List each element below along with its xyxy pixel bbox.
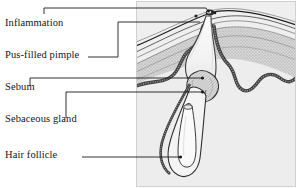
label-sebum: Sebum	[5, 82, 35, 93]
skin-cross-section-figure: Inflammation Pus-filled pimple Sebum Seb…	[0, 0, 297, 188]
label-hair-follicle: Hair follicle	[5, 150, 57, 161]
label-sebaceous-gland: Sebaceous gland	[5, 114, 77, 125]
label-pus-filled-pimple: Pus-filled pimple	[5, 50, 79, 61]
label-inflammation: Inflammation	[5, 18, 63, 29]
